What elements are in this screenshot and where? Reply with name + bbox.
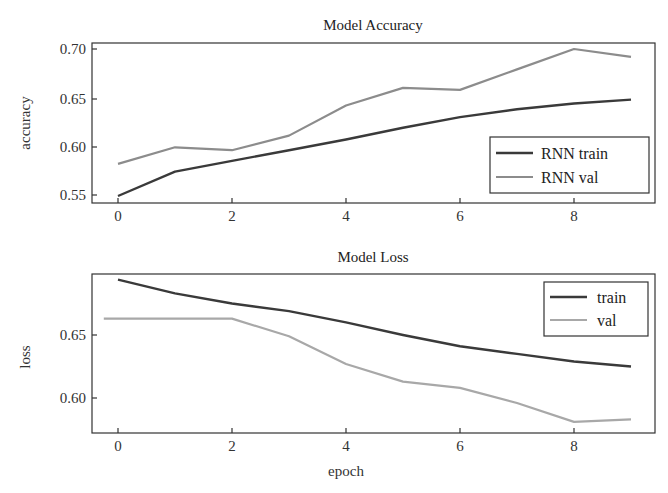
loss-y-axis: 0.65 0.60 loss <box>17 327 97 406</box>
x-tick-label: 6 <box>456 208 464 224</box>
loss-chart: Model Loss 0.65 0.60 loss 0 2 4 6 8 epoc… <box>17 249 655 479</box>
y-tick-label: 0.65 <box>60 91 86 107</box>
x-tick-label: 0 <box>114 208 122 224</box>
legend-label-rnn-train: RNN train <box>541 145 608 162</box>
y-tick-label: 0.65 <box>60 327 86 343</box>
x-tick-label: 4 <box>342 208 350 224</box>
accuracy-chart-title: Model Accuracy <box>323 17 423 33</box>
y-tick-label: 0.70 <box>60 41 86 57</box>
y-tick-label: 0.55 <box>60 187 86 203</box>
loss-x-axis-label: epoch <box>328 463 364 479</box>
accuracy-y-axis-label: accuracy <box>17 96 33 150</box>
legend-label-val: val <box>597 312 617 329</box>
legend-label-train: train <box>597 289 626 306</box>
x-tick-label: 2 <box>228 438 236 454</box>
legend-label-rnn-val: RNN val <box>541 169 599 186</box>
x-tick-label: 8 <box>570 208 578 224</box>
x-tick-label: 4 <box>342 438 350 454</box>
y-tick-label: 0.60 <box>60 139 86 155</box>
accuracy-y-axis: 0.70 0.65 0.60 0.55 accuracy <box>17 41 97 203</box>
y-tick-label: 0.60 <box>60 390 86 406</box>
figure: Model Accuracy 0.70 0.65 0.60 0.55 accur… <box>0 0 668 493</box>
accuracy-legend: RNN train RNN val <box>490 137 649 193</box>
x-tick-label: 8 <box>570 438 578 454</box>
x-tick-label: 2 <box>228 208 236 224</box>
x-tick-label: 0 <box>114 438 122 454</box>
x-tick-label: 6 <box>456 438 464 454</box>
loss-x-axis: 0 2 4 6 8 epoch <box>114 428 578 479</box>
loss-chart-title: Model Loss <box>337 249 408 265</box>
loss-y-axis-label: loss <box>17 345 33 369</box>
accuracy-chart: Model Accuracy 0.70 0.65 0.60 0.55 accur… <box>17 17 655 224</box>
loss-legend: train val <box>544 282 648 336</box>
accuracy-x-axis: 0 2 4 6 8 <box>114 198 578 224</box>
